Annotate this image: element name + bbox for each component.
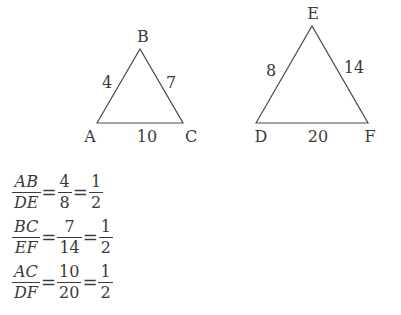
fraction-numerator: 10 bbox=[57, 263, 81, 281]
vertex-label-f: F bbox=[364, 127, 375, 146]
fraction-denominator: 20 bbox=[57, 284, 81, 302]
vertex-label-b: B bbox=[137, 27, 149, 46]
fraction-numerator: 7 bbox=[62, 218, 76, 236]
equals-sign: = bbox=[41, 229, 56, 247]
equation-ac-df: AC DF = 10 20 = 1 2 bbox=[12, 260, 113, 305]
triangle-def: D E F 8 14 20 bbox=[255, 4, 376, 146]
value-fraction: 10 20 bbox=[57, 263, 81, 302]
result-fraction: 1 2 bbox=[98, 263, 112, 302]
fraction-denominator: EF bbox=[13, 239, 40, 257]
fraction-denominator: 2 bbox=[89, 194, 103, 212]
vertex-label-d: D bbox=[255, 127, 268, 146]
side-label-df: 20 bbox=[308, 127, 328, 146]
vertex-label-c: C bbox=[185, 127, 197, 146]
triangle-abc: A B C 4 7 10 bbox=[83, 27, 197, 146]
equals-sign: = bbox=[41, 274, 56, 292]
equation-bc-ef: BC EF = 7 14 = 1 2 bbox=[12, 215, 113, 260]
fraction-denominator: DF bbox=[12, 284, 40, 302]
fraction-numerator: 1 bbox=[89, 173, 103, 191]
fraction-numerator: 4 bbox=[58, 173, 72, 191]
fraction-denominator: 2 bbox=[99, 239, 113, 257]
equals-sign: = bbox=[82, 274, 97, 292]
result-fraction: 1 2 bbox=[89, 173, 103, 212]
side-label-de: 8 bbox=[266, 61, 276, 80]
equation-ab-de: AB DE = 4 8 = 1 2 bbox=[12, 170, 113, 215]
fraction-numerator: AB bbox=[13, 173, 40, 191]
ratio-fraction: AC DF bbox=[12, 263, 40, 302]
side-label-ef: 14 bbox=[344, 58, 364, 77]
value-fraction: 7 14 bbox=[57, 218, 81, 257]
fraction-denominator: 14 bbox=[57, 239, 81, 257]
value-fraction: 4 8 bbox=[58, 173, 72, 212]
ratio-fraction: AB DE bbox=[12, 173, 41, 212]
side-label-ac: 10 bbox=[137, 127, 157, 146]
fraction-numerator: BC bbox=[12, 218, 40, 236]
vertex-label-e: E bbox=[307, 4, 319, 23]
equals-sign: = bbox=[73, 184, 88, 202]
fraction-numerator: AC bbox=[12, 263, 40, 281]
fraction-numerator: 1 bbox=[98, 263, 112, 281]
result-fraction: 1 2 bbox=[99, 218, 113, 257]
equals-sign: = bbox=[83, 229, 98, 247]
equals-sign: = bbox=[42, 184, 57, 202]
ratio-fraction: BC EF bbox=[12, 218, 40, 257]
side-label-ab: 4 bbox=[102, 73, 112, 92]
vertex-label-a: A bbox=[83, 127, 96, 146]
ratio-equations: AB DE = 4 8 = 1 2 BC EF = 7 14 = bbox=[12, 170, 113, 305]
fraction-numerator: 1 bbox=[99, 218, 113, 236]
fraction-denominator: 8 bbox=[58, 194, 72, 212]
fraction-denominator: 2 bbox=[98, 284, 112, 302]
side-label-bc: 7 bbox=[166, 73, 176, 92]
fraction-denominator: DE bbox=[12, 194, 41, 212]
